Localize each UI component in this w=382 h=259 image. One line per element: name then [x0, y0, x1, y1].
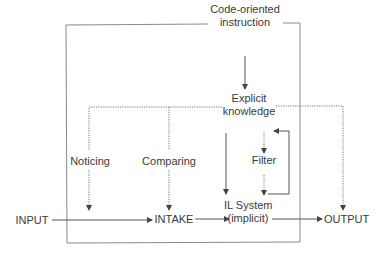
explicit-knowledge-node: Explicit knowledge — [222, 92, 276, 118]
filter-node: Filter — [250, 154, 278, 167]
explicit-knowledge-line2: knowledge — [222, 105, 276, 118]
il-system-line1: IL System — [224, 199, 272, 212]
output-node: OUTPUT — [324, 213, 368, 226]
noticing-node: Noticing — [68, 155, 112, 168]
code-instruction-line1: Code-oriented — [208, 3, 282, 16]
code-instruction-node: Code-oriented instruction — [208, 3, 282, 29]
explicit-dotted-branches — [89, 106, 343, 205]
diagram-canvas: Code-oriented instruction Explicit knowl… — [0, 0, 382, 259]
input-node: INPUT — [14, 214, 50, 227]
dotted-arrowheads — [86, 148, 346, 211]
explicit-knowledge-line1: Explicit — [222, 92, 276, 105]
code-instruction-line2: instruction — [208, 16, 282, 29]
comparing-node: Comparing — [142, 155, 196, 168]
intake-node: INTAKE — [154, 213, 194, 226]
il-system-line2: (implicit) — [224, 212, 272, 225]
il-system-node: IL System (implicit) — [224, 199, 272, 225]
